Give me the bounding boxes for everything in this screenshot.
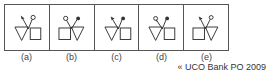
source-credit: « UCO Bank PO 2009 [177,62,266,72]
square-shape [30,28,41,39]
panel-b [50,5,95,50]
figure-e [184,5,228,50]
label-a: (a) [4,51,49,63]
arrow-head-icon [21,16,25,20]
triangle-shape [206,27,218,40]
answer-figures-frame [4,4,229,51]
open-circle-icon [154,16,158,20]
triangle-shape [15,27,28,40]
figure-c [95,5,139,50]
filled-dot-icon [76,16,80,20]
panel-e [184,5,228,50]
triangle-shape [105,27,118,40]
label-c: (c) [94,51,139,63]
filled-dot-icon [121,16,125,20]
figure-d [139,5,183,50]
open-circle-icon [31,15,35,19]
triangle-shape [71,27,83,40]
left-stick [157,20,163,29]
filled-dot-icon [166,16,170,20]
label-b: (b) [49,51,94,63]
square-shape [59,28,70,39]
square-shape [193,28,204,39]
panel-a [5,5,50,50]
square-shape [165,28,176,39]
open-circle-icon [209,16,213,20]
triangle-shape [149,27,162,40]
square-shape [120,28,131,39]
open-circle-icon [63,16,67,20]
figure-b [50,5,94,50]
panel-d [139,5,184,50]
figure-a [5,5,49,50]
panel-c [95,5,140,50]
